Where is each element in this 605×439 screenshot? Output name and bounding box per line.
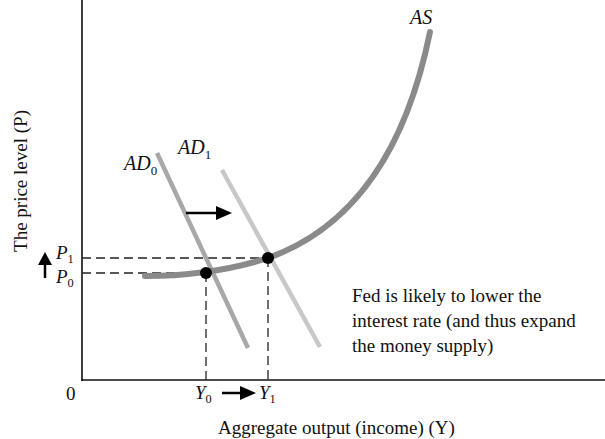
equilibrium-point-e0 [200,267,212,279]
price-up-arrow-icon [38,252,52,278]
x-axis-title: Aggregate output (income) (Y) [218,417,455,439]
fed-annotation-line-3: the money supply) [352,333,605,358]
ad-shift-arrow-icon [186,206,232,220]
equilibrium-point-e1 [262,252,274,264]
y1-label: Y1 [259,382,276,407]
p1-label: P1 [56,242,74,267]
as-label: AS [410,6,432,29]
fed-annotation-line-2: interest rate (and thus expand [352,308,605,333]
fed-annotation-line-1: Fed is likely to lower the [352,283,605,308]
p0-label: P0 [56,266,74,291]
ad0-curve [157,153,248,348]
ad0-label: AD0 [124,152,157,179]
fed-annotation: Fed is likely to lower the interest rate… [352,283,605,358]
origin-label: 0 [66,383,76,405]
output-right-arrow-icon [222,386,256,400]
y0-label: Y0 [195,382,212,407]
y-axis-title: The price level (P) [10,96,32,266]
ad1-label: AD1 [178,136,211,163]
